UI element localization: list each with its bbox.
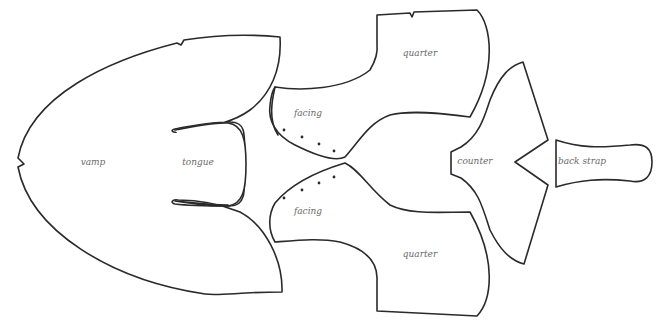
- counter-label: counter: [457, 156, 492, 166]
- facing-lower-label: facing: [294, 206, 322, 216]
- quarter-lower-label: quarter: [403, 249, 437, 259]
- vamp-label: vamp: [81, 157, 106, 167]
- punch-hole: [333, 176, 336, 179]
- punch-hole: [283, 129, 286, 132]
- back-strap-label: back strap: [558, 156, 606, 166]
- punch-hole: [318, 182, 321, 185]
- punch-hole: [283, 197, 286, 200]
- punch-hole: [318, 143, 321, 146]
- punch-hole: [301, 189, 304, 192]
- facing-upper-label: facing: [294, 108, 322, 118]
- punch-hole: [333, 150, 336, 153]
- punch-hole: [301, 136, 304, 139]
- facing-quarter-lower-piece: [270, 163, 490, 316]
- quarter-upper-label: quarter: [403, 48, 437, 58]
- tongue-label: tongue: [182, 157, 214, 167]
